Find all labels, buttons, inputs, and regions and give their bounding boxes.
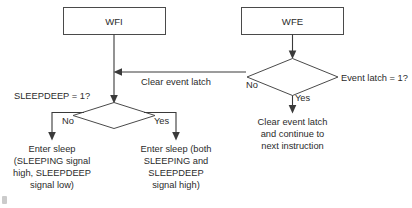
sleep-normal-line-4: signal low) <box>30 180 74 190</box>
flowchart-svg: WFI WFE Event latch = 1? Clear event lat… <box>0 0 412 208</box>
sleepdeep-no-arrowhead <box>48 132 56 141</box>
sleep-normal-line-2: (SLEEPING signal <box>14 156 90 166</box>
event-latch-diamond[interactable] <box>247 59 338 96</box>
event-latch-no-label: No <box>246 80 258 90</box>
event-latch-yes-arrowhead <box>289 105 297 114</box>
event-latch-yes-label: Yes <box>295 93 311 103</box>
sleep-normal-text: Enter sleep (SLEEPING signal high, SLEEP… <box>13 144 91 190</box>
sleep-deep-line-4: signal high) <box>152 180 200 190</box>
wfe-to-eventlatch-arrowhead <box>289 51 297 60</box>
sleepdeep-diamond[interactable] <box>73 103 155 129</box>
sleep-normal-line-3: high, SLEEPDEEP <box>13 168 91 178</box>
event-latch-diamond-label: Event latch = 1? <box>341 73 408 83</box>
continue-exec-line-1: Clear event latch <box>258 117 328 127</box>
clear-event-latch-label: Clear event latch <box>141 77 211 87</box>
sleepdeep-yes-label: Yes <box>154 116 170 126</box>
sleepdeep-diamond-label: SLEEPDEEP = 1? <box>14 91 90 101</box>
sleep-deep-text: Enter sleep (both SLEEPING and SLEEPDEEP… <box>141 144 212 190</box>
flowchart-canvas: WFI WFE Event latch = 1? Clear event lat… <box>0 0 412 208</box>
sleep-normal-line-1: Enter sleep <box>28 144 75 154</box>
wfi-box-label: WFI <box>105 16 123 27</box>
sleepdeep-yes-arrowhead <box>172 132 180 141</box>
continue-exec-line-3: next instruction <box>261 141 324 151</box>
continue-exec-line-2: and continue to <box>261 129 325 139</box>
wfe-box-label: WFE <box>282 16 303 27</box>
scan-artifact-mark <box>2 196 7 204</box>
sleepdeep-no-label: No <box>62 116 74 126</box>
continue-exec-text: Clear event latch and continue to next i… <box>258 117 328 151</box>
sleep-deep-line-1: Enter sleep (both <box>141 144 212 154</box>
sleep-deep-line-2: SLEEPING and <box>144 156 209 166</box>
clear-event-latch-arrowhead <box>114 68 123 76</box>
sleep-deep-line-3: SLEEPDEEP <box>148 168 203 178</box>
